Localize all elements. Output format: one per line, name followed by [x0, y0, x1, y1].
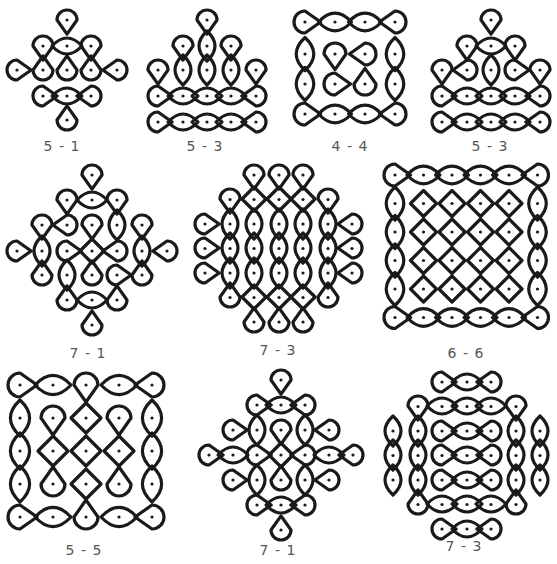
pulli-dot [301, 247, 304, 250]
pulli-dot [333, 112, 336, 115]
kolam-drawing [293, 12, 405, 127]
pulli-dot [327, 478, 330, 481]
kolam-figure [5, 8, 120, 133]
pulli-dot [536, 316, 539, 319]
pulli-dot [231, 453, 234, 456]
kolam-figure [383, 370, 551, 538]
kolam-stroke [246, 60, 266, 84]
pulli-dot [156, 94, 159, 97]
kolam-stroke [135, 505, 164, 529]
pulli-dot [255, 428, 258, 431]
pulli-dot [465, 94, 468, 97]
pulli-dot [254, 120, 257, 123]
kolam-stroke [505, 60, 529, 80]
pulli-dot [440, 527, 443, 530]
figure-label: 7 - 3 [248, 342, 308, 358]
pulli-dot [51, 416, 54, 419]
kolam-figure [195, 370, 363, 538]
pulli-dot [538, 120, 541, 123]
kolam-drawing [195, 163, 363, 331]
kolam-drawing [383, 370, 551, 538]
pulli-dot [538, 94, 541, 97]
pulli-dot [489, 405, 492, 408]
kolam-stroke [293, 308, 313, 332]
pulli-dot [140, 223, 143, 226]
pulli-dot [65, 298, 68, 301]
pulli-dot [536, 287, 539, 290]
pulli-dot [65, 249, 68, 252]
pulli-dot [65, 273, 68, 276]
kolam-stroke [135, 373, 164, 397]
pulli-dot [117, 416, 120, 419]
pulli-dot [18, 383, 21, 386]
pulli-dot [465, 405, 468, 408]
pulli-dot [18, 515, 21, 518]
pulli-dot [301, 296, 304, 299]
pulli-dot [536, 259, 539, 262]
pulli-dot [65, 223, 68, 226]
pulli-dot [514, 405, 517, 408]
kolam-stroke [8, 373, 37, 397]
kolam-stroke [74, 500, 98, 529]
pulli-dot [90, 273, 93, 276]
pulli-dot [156, 68, 159, 71]
pulli-dot [301, 271, 304, 274]
kolam-stroke [294, 11, 321, 33]
pulli-dot [440, 68, 443, 71]
pulli-dot [150, 515, 153, 518]
pulli-dot [18, 482, 21, 485]
kolam-stroke [107, 265, 131, 285]
kolam-stroke [354, 68, 376, 95]
kolam-stroke [195, 263, 219, 283]
kolam-figure [5, 163, 175, 333]
pulli-dot [203, 271, 206, 274]
kolam-drawing [5, 8, 120, 133]
pulli-dot [489, 454, 492, 457]
kolam-stroke [271, 466, 291, 490]
pulli-dot [255, 503, 258, 506]
pulli-dot [150, 449, 153, 452]
pulli-dot [205, 68, 208, 71]
pulli-dot [40, 249, 43, 252]
pulli-dot [440, 405, 443, 408]
pulli-dot [252, 222, 255, 225]
figure-label: 7 - 1 [248, 542, 308, 558]
pulli-dot [440, 454, 443, 457]
pulli-dot [416, 454, 419, 457]
pulli-dot [465, 68, 468, 71]
pulli-dot [363, 112, 366, 115]
pulli-dot [465, 527, 468, 530]
kolam-stroke [82, 215, 102, 239]
pulli-dot [277, 173, 280, 176]
kolam-stroke [103, 60, 127, 80]
pulli-dot [277, 247, 280, 250]
pulli-dot [205, 120, 208, 123]
pulli-dot [489, 68, 492, 71]
cropped-header-strip [0, 0, 557, 3]
pulli-dot [303, 112, 306, 115]
kolam-stroke [338, 238, 362, 258]
pulli-dot [65, 44, 68, 47]
pulli-dot [90, 223, 93, 226]
kolam-drawing [5, 163, 175, 333]
pulli-dot [228, 271, 231, 274]
pulli-dot [514, 478, 517, 481]
pulli-dot [18, 416, 21, 419]
pulli-dot [440, 478, 443, 481]
pulli-dot [416, 478, 419, 481]
pulli-dot [350, 247, 353, 250]
pulli-dot [303, 453, 306, 456]
pulli-dot [507, 173, 510, 176]
pulli-dot [41, 68, 44, 71]
kolam-stroke [107, 406, 131, 435]
pulli-dot [351, 453, 354, 456]
pulli-dot [207, 453, 210, 456]
pulli-dot [507, 230, 510, 233]
pulli-dot [538, 68, 541, 71]
pulli-dot [514, 503, 517, 506]
kolam-stroke [349, 43, 376, 65]
pulli-dot [465, 120, 468, 123]
pulli-dot [51, 515, 54, 518]
pulli-dot [15, 68, 18, 71]
pulli-dot [279, 528, 282, 531]
